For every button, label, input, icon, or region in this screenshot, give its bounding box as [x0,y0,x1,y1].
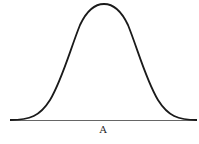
bell-curve-figure: A [0,0,199,144]
baseline-label: A [97,124,109,135]
bell-curve-path [10,4,197,120]
bell-curve-graphic [0,0,199,144]
